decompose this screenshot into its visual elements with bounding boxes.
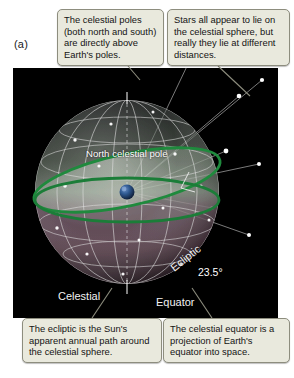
- equator-word-label: Equator: [156, 296, 195, 308]
- tilt-angle-label: 23.5°: [198, 266, 223, 278]
- callout-stars-distances: Stars all appear to lie on the celestial…: [167, 9, 290, 66]
- panel-letter: (a): [14, 38, 28, 50]
- callout-ecliptic-definition: The ecliptic is the Sun's apparent annua…: [22, 318, 162, 363]
- callout-stars-text: Stars all appear to lie on the celestial…: [174, 14, 284, 60]
- celestial-sphere-graphic: [13, 68, 278, 318]
- callout-celestial-poles: The celestial poles (both north and sout…: [57, 9, 164, 66]
- north-celestial-pole-label: North celestial pole: [86, 148, 168, 159]
- sky-panel: North celestial pole South celestial pol…: [13, 68, 278, 318]
- earth: [120, 185, 135, 200]
- celestial-sphere: [29, 92, 226, 294]
- callout-celestial-equator-definition: The celestial equator is a projection of…: [163, 318, 290, 363]
- earth-highlight: [122, 187, 127, 192]
- callout-ecliptic-text: The ecliptic is the Sun's apparent annua…: [29, 323, 156, 358]
- callout-poles-text: The celestial poles (both north and sout…: [64, 14, 158, 60]
- celestial-sphere-figure: (a): [0, 0, 294, 378]
- callout-equator-text: The celestial equator is a projection of…: [170, 323, 284, 358]
- celestial-word-label: Celestial: [58, 290, 100, 302]
